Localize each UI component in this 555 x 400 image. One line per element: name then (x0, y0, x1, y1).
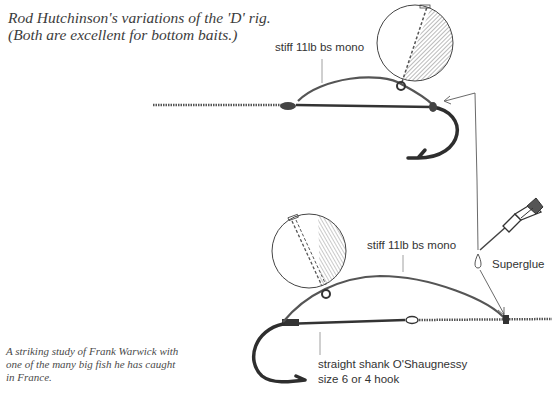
hook-1 (408, 107, 457, 158)
ring-swivel-2 (322, 290, 330, 298)
mono-loop-1 (298, 77, 433, 105)
main-line-2 (419, 319, 552, 320)
hook-shank-1 (296, 105, 432, 107)
label-hook: straight shank O'Shaugnessy size 6 or 4 … (318, 357, 467, 387)
hook-shank-2 (283, 320, 405, 324)
label-rig1-mono: stiff 11lb bs mono (275, 41, 364, 53)
label-superglue: Superglue (492, 258, 544, 270)
rig-2 (254, 198, 552, 382)
whipping-1 (429, 102, 437, 112)
rig-diagram (0, 0, 555, 400)
pointer-arrow (445, 93, 475, 101)
label-hook-line1: straight shank O'Shaugnessy (318, 357, 467, 372)
label-hook-line2: size 6 or 4 hook (318, 372, 467, 387)
hook-2 (254, 324, 305, 382)
knot-1 (280, 102, 296, 110)
glue-drop (475, 254, 481, 268)
label-rig2-mono: stiff 11lb bs mono (367, 239, 456, 251)
swivel-2 (406, 317, 418, 324)
superglue-tube-icon (480, 198, 543, 250)
